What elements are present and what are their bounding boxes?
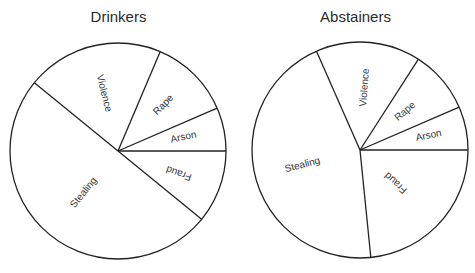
abstainers-pie-svg: ArsonRapeViolenceStealingFraud [237, 0, 474, 273]
drinkers-pie-svg: ArsonRapeViolenceStealingFraud [0, 0, 237, 273]
drinkers-pie-chart: Drinkers ArsonRapeViolenceStealingFraud [0, 0, 237, 273]
abstainers-pie-chart: Abstainers ArsonRapeViolenceStealingFrau… [237, 0, 474, 273]
